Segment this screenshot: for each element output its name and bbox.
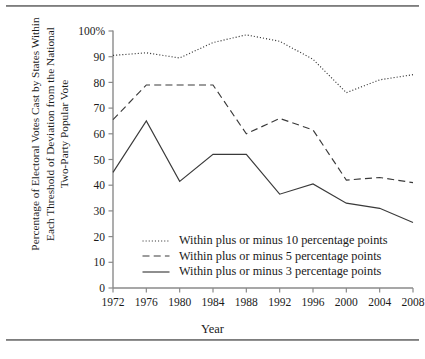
y-tick-label: 40 [94, 179, 106, 191]
legend-swatch-dotted [142, 236, 170, 246]
x-tick-label: 2008 [402, 296, 425, 308]
legend-item[interactable]: Within plus or minus 5 percentage points [142, 249, 410, 265]
legend-item[interactable]: Within plus or minus 3 percentage points [142, 264, 410, 280]
x-tick-label: 1996 [302, 296, 325, 308]
y-tick-label: 80 [94, 77, 106, 89]
y-tick-label: 90 [94, 51, 106, 63]
x-tick-label: 1988 [235, 296, 258, 308]
series-line-dashed [113, 85, 413, 183]
chart-legend: Within plus or minus 10 percentage point… [142, 233, 410, 280]
x-tick-label: 1984 [202, 296, 225, 308]
x-tick-label: 2004 [368, 296, 391, 308]
y-tick-label: 0 [99, 282, 105, 294]
top-horizontal-rule [6, 5, 419, 7]
y-tick-label: 50 [94, 154, 106, 166]
y-axis: 0102030405060708090100% [78, 25, 113, 294]
legend-item-label: Within plus or minus 3 percentage points [179, 264, 381, 279]
legend-swatch-solid [142, 267, 170, 277]
line-chart-svg: 0102030405060708090100% 1972197619801984… [0, 14, 425, 336]
legend-swatch-dashed [142, 251, 170, 261]
y-tick-label: 60 [94, 128, 106, 140]
figure-root: 0102030405060708090100% 1972197619801984… [0, 0, 425, 359]
data-series-group [113, 35, 413, 223]
bottom-horizontal-rule [6, 339, 419, 341]
y-tick-label: 30 [94, 205, 106, 217]
x-tick-label: 2000 [335, 296, 358, 308]
x-axis: 1972197619801984198819921996200020042008 [102, 288, 425, 308]
x-tick-label: 1972 [102, 296, 125, 308]
x-tick-label: 1976 [135, 296, 158, 308]
x-tick-label: 1980 [168, 296, 191, 308]
y-tick-label: 20 [94, 231, 106, 243]
y-tick-label: 70 [94, 102, 106, 114]
x-axis-label: Year [0, 322, 425, 337]
y-tick-label: 100% [78, 25, 105, 37]
legend-item-label: Within plus or minus 5 percentage points [179, 249, 381, 264]
legend-item-label: Within plus or minus 10 percentage point… [179, 233, 388, 248]
chart-plot-area: 0102030405060708090100% 1972197619801984… [0, 14, 425, 336]
series-line-dotted [113, 35, 413, 93]
x-tick-label: 1992 [268, 296, 291, 308]
y-tick-label: 10 [94, 256, 106, 268]
legend-item[interactable]: Within plus or minus 10 percentage point… [142, 233, 410, 249]
series-line-solid [113, 121, 413, 223]
